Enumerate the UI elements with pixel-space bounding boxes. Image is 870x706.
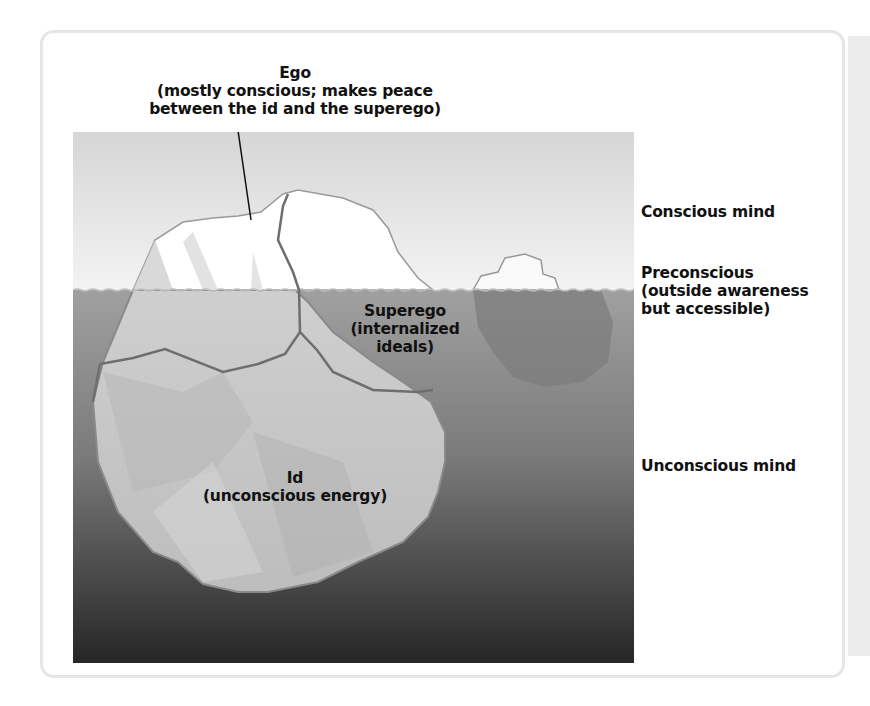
id-label: Id (unconscious energy) (170, 469, 420, 505)
superego-label: Superego (internalized ideals) (310, 302, 500, 356)
iceberg-scene (73, 132, 634, 663)
ego-desc-line1: (mostly conscious; makes peace (120, 82, 470, 100)
preconscious-desc-line1: (outside awareness (641, 282, 809, 300)
conscious-mind-label: Conscious mind (641, 203, 775, 221)
ego-label: Ego (mostly conscious; makes peace betwe… (120, 64, 470, 118)
id-desc-line1: (unconscious energy) (170, 487, 420, 505)
id-title: Id (170, 469, 420, 487)
superego-desc-line2: ideals) (310, 338, 500, 356)
superego-desc-line1: (internalized (310, 320, 500, 338)
preconscious-desc-line2: but accessible) (641, 300, 809, 318)
unconscious-mind-label: Unconscious mind (641, 457, 796, 475)
ego-desc-line2: between the id and the superego) (120, 100, 470, 118)
superego-title: Superego (310, 302, 500, 320)
preconscious-label: Preconscious (outside awareness but acce… (641, 264, 809, 318)
iceberg-illustration (73, 132, 634, 663)
back-page-edge (848, 36, 870, 656)
ego-title: Ego (120, 64, 470, 82)
preconscious-title: Preconscious (641, 264, 809, 282)
